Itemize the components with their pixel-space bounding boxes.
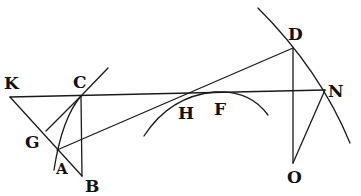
arc-CA <box>54 96 81 170</box>
line-KB <box>10 97 82 176</box>
line-KN <box>10 90 325 97</box>
label-N: N <box>328 81 344 101</box>
label-C: C <box>73 72 87 92</box>
label-D: D <box>288 24 303 44</box>
label-G: G <box>25 132 40 152</box>
label-B: B <box>85 176 99 196</box>
line-AD <box>57 48 293 150</box>
line-CB <box>81 96 82 176</box>
arc-HF <box>144 92 268 136</box>
line-NO <box>293 90 325 163</box>
label-K: K <box>4 73 20 93</box>
line-CG <box>46 96 81 131</box>
label-O: O <box>287 167 302 187</box>
label-F: F <box>214 99 226 119</box>
arc-DN <box>258 8 350 143</box>
geometric-figure: K C G A B H F D N O <box>0 0 361 196</box>
label-A: A <box>55 160 68 178</box>
label-H: H <box>178 103 194 123</box>
